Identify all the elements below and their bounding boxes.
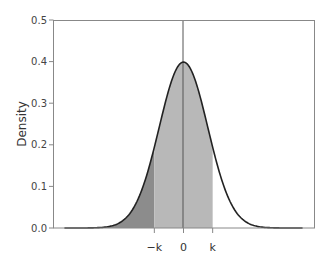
x-axis: −k0k <box>147 228 217 254</box>
y-axis-title: Density <box>15 101 29 147</box>
shaded-regions <box>64 62 212 228</box>
x-tick-label: −k <box>147 241 163 254</box>
y-tick-label: 0.2 <box>31 139 47 150</box>
y-tick-label: 0.1 <box>31 181 47 192</box>
density-chart: 0.00.10.20.30.40.5 −k0k Density <box>0 0 329 271</box>
y-tick-label: 0.0 <box>31 223 47 234</box>
x-tick-label: k <box>209 241 216 254</box>
y-tick-label: 0.4 <box>31 56 47 67</box>
y-tick-label: 0.3 <box>31 98 47 109</box>
x-tick-label: 0 <box>180 241 187 254</box>
y-axis: 0.00.10.20.30.40.5 <box>31 15 53 234</box>
y-tick-label: 0.5 <box>31 15 47 26</box>
region-0 <box>64 147 154 228</box>
